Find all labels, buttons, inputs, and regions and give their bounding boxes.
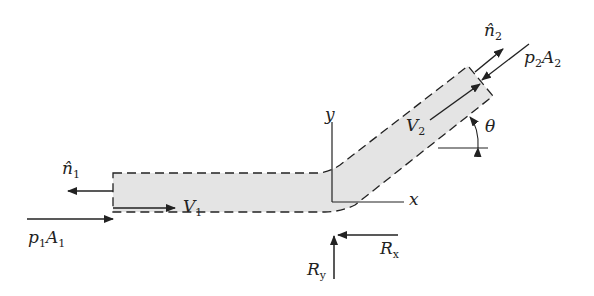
theta-arc <box>470 117 478 148</box>
x-axis-label: x <box>409 191 419 208</box>
p2a2-arrow <box>482 44 529 80</box>
rx-label: Rx <box>380 240 399 260</box>
diagram: n̂1 V1 p1A1 V2 n̂2 p2A2 θ y x Rx Ry <box>0 0 594 296</box>
control-volume <box>113 66 493 212</box>
v2-label: V2 <box>406 117 425 137</box>
n2-arrow <box>475 49 503 72</box>
theta-label: θ <box>485 118 495 135</box>
p2a2-label: p2A2 <box>524 49 561 69</box>
p1a1-label: p1A1 <box>28 229 65 249</box>
diagram-canvas <box>0 0 594 296</box>
y-axis-label: y <box>325 106 335 123</box>
v1-label: V1 <box>183 198 202 218</box>
ry-label: Ry <box>307 261 326 281</box>
n1-label: n̂1 <box>62 160 80 180</box>
n2-label: n̂2 <box>484 22 502 42</box>
